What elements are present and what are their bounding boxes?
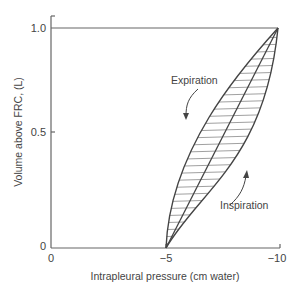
y-tick-1.0: 1.0	[31, 22, 46, 34]
x-tick-0: 0	[48, 252, 54, 264]
inspiration-arrowhead-icon	[243, 170, 249, 178]
compliance-line	[166, 28, 278, 248]
expiration-arrowhead-icon	[183, 113, 189, 120]
x-tick-minus5: −5	[160, 252, 173, 264]
x-axis-label: Intrapleural pressure (cm water)	[91, 270, 240, 282]
inspiration-label: Inspiration	[220, 199, 269, 211]
y-tick-0: 0	[40, 240, 46, 252]
expiration-arrow	[186, 89, 198, 116]
axes	[51, 16, 280, 248]
expiration-label: Expiration	[171, 74, 218, 86]
x-tick-minus10: −10	[268, 252, 287, 264]
pressure-volume-chart: Expiration Inspiration 1.0 0.5 0 0 −5 −1…	[0, 0, 299, 289]
y-axis-label: Volume above FRC, (L)	[12, 77, 24, 187]
y-tick-0.5: 0.5	[31, 126, 46, 138]
